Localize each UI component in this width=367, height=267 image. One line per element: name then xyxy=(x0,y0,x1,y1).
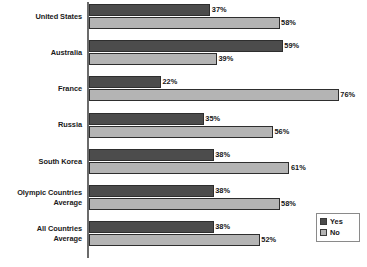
bar-no[interactable] xyxy=(89,198,280,210)
bar-value-label: 38% xyxy=(214,186,230,195)
category-label-line: Olympic Countries xyxy=(0,188,82,198)
legend-label: Yes xyxy=(330,218,343,226)
bar-value-label: 38% xyxy=(214,222,230,231)
legend-item-no[interactable]: No xyxy=(320,228,356,238)
category-label: France xyxy=(0,84,82,94)
group-bars: 38%58% xyxy=(89,185,367,211)
bar-value-label: 52% xyxy=(260,235,276,244)
bar-value-label: 22% xyxy=(161,77,177,86)
category-label-line: France xyxy=(0,84,82,94)
bar-chart: United States37%58%Australia59%39%France… xyxy=(0,0,367,267)
bar-yes[interactable] xyxy=(89,221,214,233)
bar-yes[interactable] xyxy=(89,40,283,52)
legend-item-yes[interactable]: Yes xyxy=(320,217,356,227)
bar-wrapper: 37% xyxy=(89,4,367,16)
bar-yes[interactable] xyxy=(89,149,214,161)
bar-value-label: 58% xyxy=(280,199,296,208)
bar-value-label: 35% xyxy=(204,114,220,123)
bar-wrapper: 39% xyxy=(89,53,367,65)
bar-wrapper: 38% xyxy=(89,185,367,197)
chart-legend: YesNo xyxy=(316,213,360,242)
category-label-line: Average xyxy=(0,198,82,208)
bar-value-label: 37% xyxy=(210,5,226,14)
group-bars: 38%61% xyxy=(89,149,367,175)
bar-value-label: 39% xyxy=(217,54,233,63)
bar-yes[interactable] xyxy=(89,4,211,16)
bar-wrapper: 35% xyxy=(89,113,367,125)
category-label-line: Australia xyxy=(0,48,82,58)
category-label: South Korea xyxy=(0,157,82,167)
group-bars: 37%58% xyxy=(89,4,367,30)
bar-wrapper: 56% xyxy=(89,126,367,138)
legend-label: No xyxy=(330,229,340,237)
bar-no[interactable] xyxy=(89,17,280,29)
bar-yes[interactable] xyxy=(89,113,204,125)
bar-wrapper: 61% xyxy=(89,162,367,174)
category-label-line: All Countries xyxy=(0,224,82,234)
bar-wrapper: 22% xyxy=(89,76,367,88)
category-label-line: Average xyxy=(0,234,82,244)
category-label: All CountriesAverage xyxy=(0,224,82,243)
group-bars: 59%39% xyxy=(89,40,367,66)
bar-yes[interactable] xyxy=(89,76,161,88)
bar-no[interactable] xyxy=(89,53,217,65)
category-label: Australia xyxy=(0,48,82,58)
bar-wrapper: 58% xyxy=(89,17,367,29)
category-label: Russia xyxy=(0,120,82,130)
legend-swatch-icon xyxy=(320,218,327,225)
bar-value-label: 76% xyxy=(339,90,355,99)
group-bars: 35%56% xyxy=(89,113,367,139)
bar-value-label: 38% xyxy=(214,150,230,159)
bar-no[interactable] xyxy=(89,162,290,174)
category-label: United States xyxy=(0,12,82,22)
bar-value-label: 58% xyxy=(280,18,296,27)
bar-wrapper: 38% xyxy=(89,149,367,161)
legend-swatch-icon xyxy=(320,229,327,236)
bar-value-label: 61% xyxy=(289,163,305,172)
bar-wrapper: 58% xyxy=(89,198,367,210)
bar-no[interactable] xyxy=(89,234,260,246)
bar-wrapper: 76% xyxy=(89,89,367,101)
group-bars: 22%76% xyxy=(89,76,367,102)
bar-no[interactable] xyxy=(89,126,273,138)
bar-no[interactable] xyxy=(89,89,339,101)
bar-yes[interactable] xyxy=(89,185,214,197)
category-label-line: Russia xyxy=(0,120,82,130)
category-label-line: United States xyxy=(0,12,82,22)
category-label-line: South Korea xyxy=(0,157,82,167)
bar-value-label: 59% xyxy=(283,41,299,50)
bar-value-label: 56% xyxy=(273,127,289,136)
bar-wrapper: 59% xyxy=(89,40,367,52)
category-label: Olympic CountriesAverage xyxy=(0,188,82,207)
plot-area: United States37%58%Australia59%39%France… xyxy=(0,0,367,267)
